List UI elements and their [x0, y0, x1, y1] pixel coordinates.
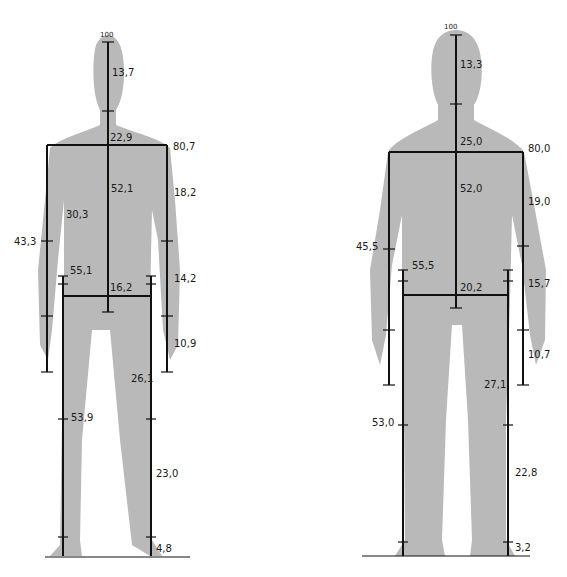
left-hip-width-label: 16,2 — [110, 282, 132, 293]
left-shoulder-height-label: 80,7 — [173, 141, 195, 152]
left-forearm-label: 14,2 — [174, 273, 196, 284]
right-torso-label: 52,0 — [460, 183, 482, 194]
right-foot-label: 3,2 — [515, 542, 531, 553]
right-hip-width-label: 20,2 — [460, 282, 482, 293]
right-reach-label: 45,5 — [356, 241, 378, 252]
right-thigh-label: 27,1 — [484, 379, 506, 390]
left-foot-label: 4,8 — [156, 543, 172, 554]
right-leg-total-label: 53,0 — [372, 417, 394, 428]
right-hip-height-label: 55,5 — [412, 260, 434, 271]
left-torso-label: 52,1 — [111, 183, 133, 194]
left-leg-total-label: 53,9 — [71, 412, 93, 423]
right-hand-label: 10,7 — [528, 349, 550, 360]
right-top-label: 100 — [444, 23, 457, 31]
left-hip-height-label: 55,1 — [70, 265, 92, 276]
left-head-label: 13,7 — [112, 67, 134, 78]
left-reach-label: 43,3 — [14, 236, 36, 247]
right-shoulder-width-label: 25,0 — [460, 136, 482, 147]
left-shin-label: 23,0 — [156, 468, 178, 479]
right-shin-label: 22,8 — [515, 467, 537, 478]
right-upper-arm-label: 19,0 — [528, 196, 550, 207]
proportion-diagram: 100 13,7 22,9 80,7 52,1 18,2 30,3 43,3 5… — [0, 0, 567, 577]
left-top-label: 100 — [100, 31, 113, 39]
left-hand-label: 10,9 — [174, 338, 196, 349]
left-arm-side-label: 30,3 — [66, 209, 88, 220]
left-shoulder-width-label: 22,9 — [110, 132, 132, 143]
right-shoulder-height-label: 80,0 — [528, 143, 550, 154]
left-upper-arm-label: 18,2 — [174, 187, 196, 198]
right-head-label: 13,3 — [460, 59, 482, 70]
left-thigh-label: 26,1 — [131, 373, 153, 384]
right-forearm-label: 15,7 — [528, 278, 550, 289]
